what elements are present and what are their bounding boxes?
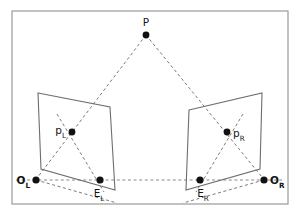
left-camera-center-OL-dot: [32, 176, 39, 183]
diagram-canvas: PpLpROLORELER: [0, 0, 302, 218]
right-camera-center-OR-label-base: O: [270, 174, 279, 186]
scene-point-P-label: P: [143, 16, 149, 28]
right-epipole-ER-label-subscript: R: [204, 194, 209, 203]
left-epipole-EL-label-subscript: L: [100, 194, 104, 203]
scene-point-P-dot: [143, 32, 150, 39]
epipolar-geometry-figure: PpLpROLORELER: [0, 0, 302, 218]
left-epipole-EL-label-base: E: [94, 187, 101, 199]
left-epipole-EL-dot: [96, 176, 103, 183]
right-image-point-pR-dot: [224, 129, 231, 136]
left-image-point-pL-label-subscript: L: [62, 131, 66, 140]
left-camera-center-OL-label-base: O: [16, 174, 25, 186]
scene-point-P-label-base: P: [143, 16, 149, 28]
right-camera-center-OR-label-subscript: R: [279, 181, 285, 190]
left-camera-center-OL-label-subscript: L: [25, 181, 30, 190]
right-image-point-pR-label-subscript: R: [240, 134, 245, 143]
right-epipole-ER-dot: [196, 176, 203, 183]
left-image-point-pL-dot: [69, 129, 76, 136]
right-camera-center-OR-dot: [260, 176, 267, 183]
right-epipole-ER-label-base: E: [197, 187, 204, 199]
